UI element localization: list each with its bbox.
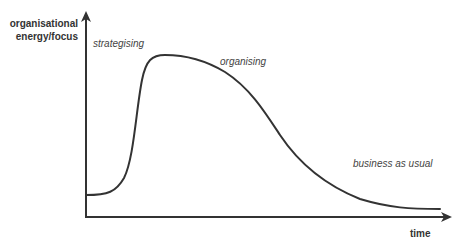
energy-curve [86,55,440,209]
y-axis-label: organisational energy/focus [2,17,78,43]
x-axis [85,212,452,222]
annotation-strategising: strategising [93,38,144,49]
x-axis-label: time [410,228,431,239]
y-axis [81,11,91,218]
y-axis-label-line-2: energy/focus [2,30,78,43]
y-axis-label-line-1: organisational [2,17,78,30]
annotation-organising: organising [220,56,266,67]
annotation-business-as-usual: business as usual [353,158,433,169]
